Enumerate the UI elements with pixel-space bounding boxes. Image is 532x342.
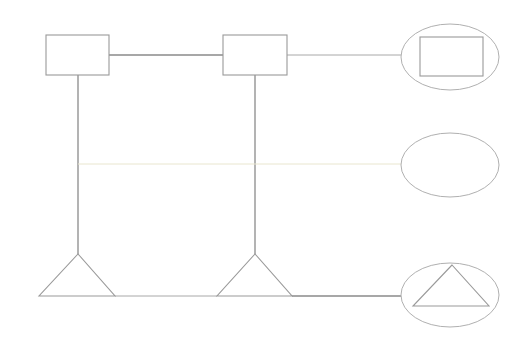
node-box-2 [223,35,287,75]
box-1-shape [46,35,109,75]
diagram-canvas [0,0,532,342]
node-ellipse-2 [401,133,499,197]
box-2-shape [223,35,287,75]
triangle-1-shape [39,254,115,296]
diagram-svg [0,0,532,342]
ellipse-2-shape [401,133,499,197]
node-triangle-1 [39,254,115,296]
triangle-2-shape [217,254,292,296]
node-box-1 [46,35,109,75]
nodes-layer [39,24,499,327]
ellipse-3-shape [401,263,499,327]
node-ellipse-1 [401,24,499,90]
node-ellipse-3 [401,263,499,327]
ellipse-1-inner-rectangle [420,37,483,76]
node-triangle-2 [217,254,292,296]
edges-layer [78,55,401,296]
